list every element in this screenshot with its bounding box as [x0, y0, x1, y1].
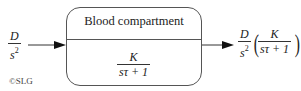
output-signal: D s2 ( K sτ + 1 ): [238, 28, 301, 64]
tf-denominator: sτ + 1: [117, 65, 150, 79]
copyright: ©SLG: [9, 76, 33, 86]
tf-numerator: K: [128, 51, 140, 64]
block-title: Blood compartment: [67, 14, 201, 29]
input-denominator: s2: [8, 44, 21, 62]
output-prefix: D s2: [238, 28, 251, 60]
blood-compartment-block: Blood compartment K sτ + 1: [66, 7, 202, 86]
input-signal: D s2: [8, 30, 21, 62]
block-divider: [67, 39, 201, 40]
transfer-function: K sτ + 1: [117, 51, 150, 79]
output-inner: K sτ + 1: [258, 28, 291, 56]
right-paren: ): [295, 31, 300, 57]
output-arrow-icon: [202, 39, 236, 51]
input-arrow-icon: [28, 39, 68, 51]
input-numerator: D: [8, 30, 21, 43]
